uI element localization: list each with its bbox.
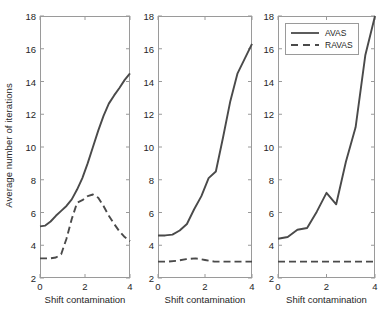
- y-tick-label: 14: [143, 76, 154, 87]
- legend-label-ravas: RAVAS: [325, 40, 353, 50]
- x-tick-label: 4: [372, 281, 377, 292]
- x-tick-label: 0: [155, 281, 160, 292]
- panel-3-curves: [278, 16, 375, 278]
- series-avas-line: [40, 73, 130, 226]
- y-tick-label: 2: [149, 273, 154, 284]
- x-tick-label: 0: [275, 281, 280, 292]
- y-tick-label: 16: [263, 43, 274, 54]
- series-ravas-line: [40, 194, 130, 258]
- panel-2-x-axis-label: Shift contamination: [165, 294, 246, 305]
- y-tick-label: 6: [149, 207, 154, 218]
- figure-container: Average number of iterations 24681012141…: [0, 0, 385, 325]
- panel-2-curves: [158, 16, 252, 278]
- x-tick-label: 0: [37, 281, 42, 292]
- y-tick-label: 8: [269, 174, 274, 185]
- y-tick-label: 4: [269, 240, 274, 251]
- legend: AVAS RAVAS: [285, 23, 359, 55]
- y-axis-label-container: Average number of iterations: [0, 0, 16, 290]
- y-tick-label: 12: [143, 109, 154, 120]
- y-tick-label: 10: [263, 142, 274, 153]
- panel-1-x-axis-label: Shift contamination: [45, 294, 126, 305]
- legend-entry-ravas: RAVAS: [290, 39, 353, 51]
- legend-swatch-dashed-icon: [290, 40, 320, 50]
- y-tick-label: 18: [263, 11, 274, 22]
- legend-swatch-solid-icon: [290, 28, 320, 38]
- y-tick-label: 10: [143, 142, 154, 153]
- panel-1-curves: [40, 16, 130, 278]
- legend-entry-avas: AVAS: [290, 27, 353, 39]
- y-tick-label: 6: [31, 207, 36, 218]
- y-axis-label: Average number of iterations: [3, 83, 14, 208]
- y-tick-label: 18: [143, 11, 154, 22]
- x-tick-label: 4: [249, 281, 254, 292]
- y-tick-label: 12: [25, 109, 36, 120]
- y-tick-label: 14: [25, 76, 36, 87]
- series-avas-line: [158, 44, 252, 236]
- x-tick-label: 4: [127, 281, 132, 292]
- y-tick-label: 10: [25, 142, 36, 153]
- y-tick-label: 6: [269, 207, 274, 218]
- legend-label-avas: AVAS: [325, 28, 346, 38]
- panel-1: 24681012141618 024 Shift contamination: [40, 16, 130, 278]
- x-tick-label: 2: [324, 281, 329, 292]
- y-tick-label: 12: [263, 109, 274, 120]
- series-ravas-line: [158, 258, 252, 261]
- y-tick-label: 18: [25, 11, 36, 22]
- y-tick-label: 8: [149, 174, 154, 185]
- x-tick-label: 2: [202, 281, 207, 292]
- panel-2: 24681012141618 024 Shift contamination: [158, 16, 252, 278]
- y-tick-label: 2: [269, 273, 274, 284]
- y-tick-label: 16: [25, 43, 36, 54]
- y-tick-label: 2: [31, 273, 36, 284]
- panel-3-x-axis-label: Shift contamination: [286, 294, 367, 305]
- x-tick-label: 2: [82, 281, 87, 292]
- y-tick-label: 4: [31, 240, 36, 251]
- y-tick-label: 8: [31, 174, 36, 185]
- panel-3: 24681012141618 024 Shift contamination A…: [278, 16, 375, 278]
- y-tick-label: 16: [143, 43, 154, 54]
- y-tick-label: 4: [149, 240, 154, 251]
- y-tick-label: 14: [263, 76, 274, 87]
